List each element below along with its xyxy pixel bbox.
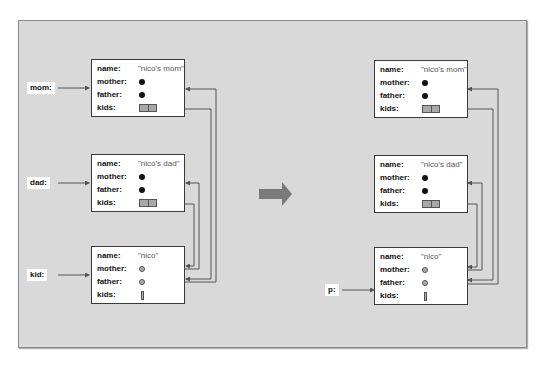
field-kids-label: kids: bbox=[380, 291, 399, 300]
object-dad-left: name:"nico's dad" mother: father: kids: bbox=[91, 154, 185, 212]
field-father-label: father: bbox=[380, 186, 405, 195]
kids-array-icon bbox=[422, 105, 440, 113]
empty-array-icon bbox=[141, 291, 144, 300]
field-name-value: "nico" bbox=[138, 250, 158, 262]
variable-mom: mom: bbox=[27, 82, 55, 94]
field-kids-label: kids: bbox=[380, 104, 399, 113]
kids-array-icon bbox=[139, 199, 157, 207]
field-name-label: name: bbox=[97, 159, 121, 168]
field-name-label: name: bbox=[97, 251, 121, 260]
field-name-value: "nico's dad" bbox=[138, 158, 179, 170]
kids-array-icon bbox=[139, 104, 157, 112]
field-kids-label: kids: bbox=[97, 290, 116, 299]
field-kids-label: kids: bbox=[97, 103, 116, 112]
field-mother-label: mother: bbox=[97, 172, 127, 181]
null-pointer-icon bbox=[139, 174, 145, 180]
field-name-label: name: bbox=[380, 252, 404, 261]
object-mom-right: name:"nico's mom" mother: father: kids: bbox=[374, 60, 468, 118]
field-mother-label: mother: bbox=[97, 77, 127, 86]
null-pointer-icon bbox=[139, 92, 145, 98]
null-pointer-icon bbox=[422, 175, 428, 181]
variable-dad: dad: bbox=[27, 177, 50, 189]
field-mother-label: mother: bbox=[380, 78, 410, 87]
pointer-dot-icon bbox=[139, 279, 145, 285]
field-father-label: father: bbox=[97, 185, 122, 194]
field-mother-label: mother: bbox=[380, 173, 410, 182]
variable-p: p: bbox=[325, 284, 339, 296]
field-father-label: father: bbox=[380, 91, 405, 100]
field-kids-label: kids: bbox=[380, 199, 399, 208]
field-mother-label: mother: bbox=[97, 264, 127, 273]
object-mom-left: name:"nico's mom" mother: father: kids: bbox=[91, 59, 185, 117]
null-pointer-icon bbox=[422, 93, 428, 99]
variable-kid: kid: bbox=[27, 269, 47, 281]
field-name-value: "nico's mom" bbox=[421, 64, 467, 76]
pointer-dot-icon bbox=[422, 280, 428, 286]
field-name-value: "nico's mom" bbox=[138, 63, 184, 75]
field-name-label: name: bbox=[97, 64, 121, 73]
object-kid-right: name:"nico" mother: father: kids: bbox=[374, 247, 468, 305]
null-pointer-icon bbox=[422, 80, 428, 86]
object-kid-left: name:"nico" mother: father: kids: bbox=[91, 246, 185, 304]
field-father-label: father: bbox=[97, 90, 122, 99]
right-arrow-icon bbox=[259, 182, 292, 206]
field-father-label: father: bbox=[97, 277, 122, 286]
field-name-label: name: bbox=[380, 65, 404, 74]
field-name-label: name: bbox=[380, 160, 404, 169]
pointer-dot-icon bbox=[422, 267, 428, 273]
object-dad-right: name:"nico's dad" mother: father: kids: bbox=[374, 155, 468, 213]
field-kids-label: kids: bbox=[97, 198, 116, 207]
null-pointer-icon bbox=[139, 79, 145, 85]
empty-array-icon bbox=[424, 292, 427, 301]
field-name-value: "nico" bbox=[421, 251, 441, 263]
null-pointer-icon bbox=[422, 188, 428, 194]
pointer-dot-icon bbox=[139, 266, 145, 272]
field-name-value: "nico's dad" bbox=[421, 159, 462, 171]
field-father-label: father: bbox=[380, 278, 405, 287]
field-mother-label: mother: bbox=[380, 265, 410, 274]
kids-array-icon bbox=[422, 200, 440, 208]
null-pointer-icon bbox=[139, 187, 145, 193]
